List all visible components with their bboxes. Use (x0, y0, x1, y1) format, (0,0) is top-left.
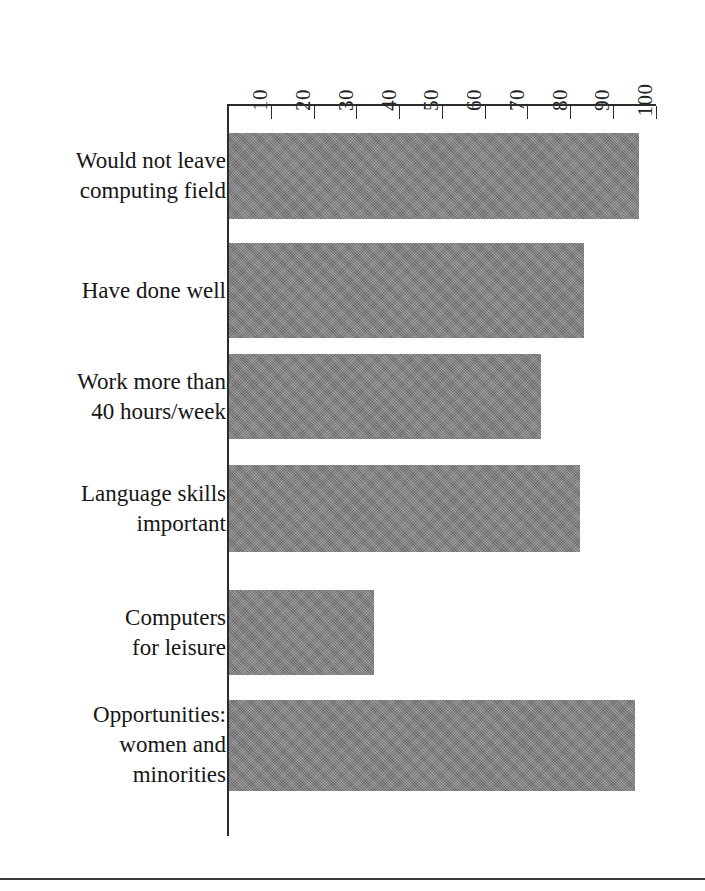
bar (229, 243, 584, 338)
bar (229, 465, 580, 552)
bar-row: Would not leave computing field (0, 133, 705, 219)
bar (229, 590, 374, 675)
axis-tick-label-holder: 20 (314, 48, 315, 100)
axis-tick-label-holder: 30 (356, 48, 357, 100)
bar (229, 354, 541, 439)
bar-row: Opportunities: women and minorities (0, 700, 705, 791)
bar-row: Language skills important (0, 465, 705, 552)
axis-tick-label-holder: 60 (485, 48, 486, 100)
axis-tick-label-holder: 100 (656, 48, 657, 100)
page-bottom-rule (0, 878, 705, 880)
category-label: Work more than 40 hours/week (77, 366, 226, 427)
bar-row: Computers for leisure (0, 590, 705, 675)
bar-row: Work more than 40 hours/week (0, 354, 705, 439)
axis-tick-label-holder: 50 (442, 48, 443, 100)
bar-chart-figure: 102030405060708090100 Would not leave co… (0, 0, 705, 891)
category-label: Language skills important (81, 478, 226, 539)
category-label: Would not leave computing field (76, 146, 226, 207)
axis-tick-label-holder: 70 (527, 48, 528, 100)
bar (229, 133, 639, 219)
axis-tick-label-holder: 10 (271, 48, 272, 100)
axis-tick-label-holder: 90 (613, 48, 614, 100)
bar-row: Have done well (0, 243, 705, 338)
category-label: Opportunities: women and minorities (93, 700, 226, 791)
axis-tick-label-holder: 40 (399, 48, 400, 100)
category-label: Have done well (82, 275, 226, 305)
bar (229, 700, 635, 791)
plot-area: Would not leave computing fieldHave done… (0, 104, 705, 804)
axis-tick-label-holder: 80 (570, 48, 571, 100)
category-label: Computers for leisure (125, 602, 226, 663)
